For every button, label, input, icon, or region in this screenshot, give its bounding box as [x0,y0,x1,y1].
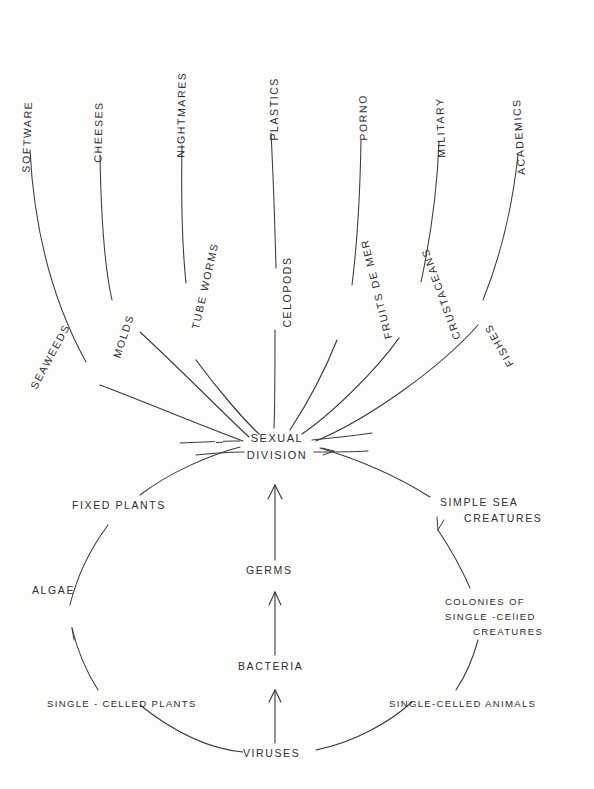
spoke-plastics [271,133,276,268]
node-celopods: CELOPODS [280,218,295,328]
edge-fixed-plants-hub [140,447,240,495]
spoke-fruits-de-mer [290,340,337,430]
hub-label-line1: SEXUAL [237,430,317,447]
hub-rim-left-1 [180,441,240,443]
spoke-crustaceans [302,338,399,434]
edge-colonies-simple-sea [438,530,470,588]
edge-sc-plants-algae [72,628,98,690]
node-colonies-single-celled-creatures: COLONIES OF SINGLE -CElIED CREATURES [445,595,543,640]
colonies-line2: SINGLE -CElIED [445,610,543,625]
edge-simple-sea-hub [320,448,430,497]
hub-rim-right-2 [314,451,368,452]
node-viruses: VIRUSES [243,746,300,761]
arrow-sexdiv-barb-2 [275,485,282,499]
simple-sea-line1: SIMPLE SEA [440,495,542,511]
node-single-celled-animals: SINGLE-CELLED ANIMALS [389,697,536,711]
node-simple-sea-creatures: SIMPLE SEA CREATURES [440,495,542,527]
spoke-academics [483,155,518,300]
spoke-molds [140,332,249,437]
diagram-canvas: SEXUAL DIVISION SOFTWARE CHEESES NIGHTMA… [0,0,594,789]
edge-viruses-sc-plants [140,705,243,752]
node-plastics: PLASTICS [267,31,282,141]
node-fixed-plants: FIXED PLANTS [72,498,166,513]
arrow-germs-barb-1 [269,592,275,605]
edge-algae-fixed-plants [70,525,108,605]
node-bacteria: BACTERIA [238,659,303,674]
hub-rim-right-1 [312,433,372,440]
spoke-fishes [316,325,478,441]
node-nightmares: NIGHTMARES [173,27,190,157]
arrow-bacteria-barb-2 [275,690,281,702]
spoke-celopods [274,330,275,428]
arrow-germs-barb-2 [275,592,281,605]
edge-colonies-arrow-barb-1 [437,517,438,530]
edge-sc-animals-colonies [456,640,478,690]
node-single-celled-plants: SINGLE - CELLED PLANTS [47,697,197,711]
colonies-line3: CREATURES [445,625,543,640]
simple-sea-line2: CREATURES [440,511,542,527]
node-porno: PORNO [355,50,372,140]
hub-label-line2: DIVISION [237,447,317,464]
node-germs: GERMS [246,563,293,578]
arrow-bacteria-barb-1 [269,690,275,702]
node-cheeses: CHEESES [91,62,108,162]
colonies-line1: COLONIES OF [445,595,543,610]
spoke-nightmares [182,145,186,283]
spoke-cheeses [100,155,112,300]
node-algae: ALGAE [32,583,75,598]
arrow-sexdiv-barb-1 [268,485,275,499]
spoke-tube-worms [196,360,259,434]
hub-label: SEXUAL DIVISION [237,430,317,463]
